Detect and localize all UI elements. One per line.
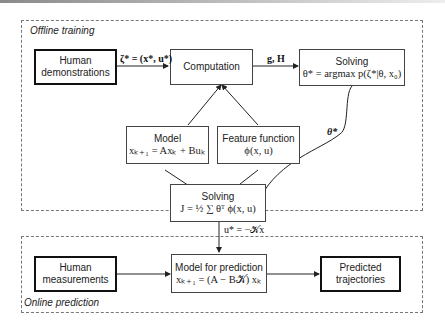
predicted-trajectories-line1: Predicted (339, 262, 381, 274)
human-demonstrations-line2: demonstrations (41, 67, 109, 79)
model-box: Model xₖ₊₁ = Axₖ + Buₖ (126, 126, 209, 164)
solving-top-box: Solving θ* = argmax p(ζ*|θ, x₀) (299, 49, 405, 86)
computation-title: Computation (183, 61, 240, 73)
solving-top-title: Solving (336, 56, 369, 68)
solving-bottom-formula: J = ½ ∑ θᵀ ϕ(x, u) (180, 203, 256, 215)
solving-top-formula: θ* = argmax p(ζ*|θ, x₀) (303, 68, 402, 80)
model-title: Model (154, 133, 181, 145)
model-prediction-formula: xₖ₊₁ = (A − B𝒦) xₖ (176, 274, 262, 286)
solving-bottom-title: Solving (202, 191, 235, 203)
edge-label-theta-star: θ* (327, 126, 337, 137)
predicted-trajectories-line2: trajectories (336, 274, 385, 286)
model-formula: xₖ₊₁ = Axₖ + Buₖ (129, 145, 206, 157)
human-demonstrations-line1: Human (59, 55, 91, 67)
feature-function-box: Feature function ϕ(x, u) (217, 126, 300, 164)
human-measurements-line1: Human (59, 262, 91, 274)
model-prediction-title: Model for prediction (175, 262, 263, 274)
human-measurements-line2: measurements (42, 274, 108, 286)
model-prediction-box: Model for prediction xₖ₊₁ = (A − B𝒦) xₖ (171, 254, 267, 293)
edge-label-gradient-hessian: g, H (267, 53, 285, 64)
human-measurements-box: Human measurements (34, 256, 117, 292)
solving-bottom-box: Solving J = ½ ∑ θᵀ ϕ(x, u) (170, 184, 266, 222)
edge-label-control-law: u* = −𝒦x (224, 224, 264, 236)
feature-function-title: Feature function (222, 133, 294, 145)
computation-box: Computation (170, 49, 253, 85)
predicted-trajectories-box: Predicted trajectories (320, 256, 401, 292)
feature-function-formula: ϕ(x, u) (244, 145, 272, 157)
human-demonstrations-box: Human demonstrations (34, 49, 117, 85)
edge-label-demonstrations: ζ* = (x*, u*) (120, 53, 172, 64)
